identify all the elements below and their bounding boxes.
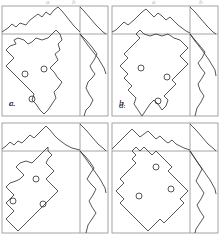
circle-marker	[33, 176, 39, 182]
panel-d	[110, 117, 220, 234]
right-marginal-profile	[80, 151, 96, 233]
circle-marker	[168, 186, 174, 192]
circle-marker	[10, 198, 16, 204]
right-strip-diagonal	[80, 151, 106, 193]
top-edge-mark: b	[199, 0, 203, 6]
top-edge-mark: b	[72, 0, 76, 6]
panel-d-label: d.	[119, 101, 126, 110]
top-right-diagonal-profile	[190, 7, 216, 34]
figure-root: a.b.c.d.abab	[0, 0, 221, 235]
circle-marker	[136, 193, 142, 199]
right-strip-diagonal	[80, 34, 106, 74]
right-marginal-profile	[190, 151, 204, 233]
panel-c-label: c.	[9, 99, 15, 108]
main-contour	[6, 147, 58, 231]
top-edge-mark: a	[152, 0, 156, 6]
panel-frame	[112, 123, 218, 233]
panel-c	[0, 117, 110, 234]
circle-marker	[153, 164, 159, 170]
circle-marker	[138, 65, 144, 71]
main-contour	[116, 147, 188, 231]
circle-marker	[155, 98, 161, 104]
top-marginal-profile	[112, 9, 190, 33]
right-marginal-profile	[190, 34, 205, 116]
circle-marker	[41, 66, 47, 72]
panel-a	[0, 0, 110, 117]
main-contour	[120, 30, 188, 116]
top-marginal-profile	[2, 126, 80, 150]
top-right-diagonal-profile	[80, 7, 106, 34]
top-marginal-profile	[112, 129, 190, 150]
right-strip-diagonal	[190, 151, 216, 194]
top-right-diagonal-profile	[190, 124, 216, 151]
right-strip-diagonal	[190, 34, 216, 76]
circle-marker	[22, 71, 28, 77]
panel-frame	[2, 123, 108, 233]
top-marginal-profile	[2, 7, 80, 32]
top-edge-mark: a	[46, 0, 50, 6]
top-right-diagonal-profile	[80, 124, 106, 151]
panel-b	[110, 0, 220, 117]
circle-marker	[164, 74, 170, 80]
